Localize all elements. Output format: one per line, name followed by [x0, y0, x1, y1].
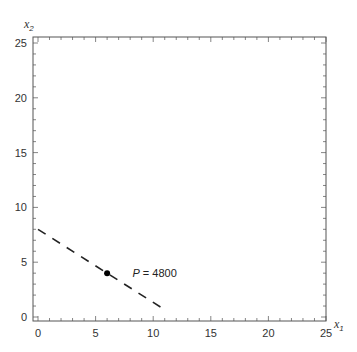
y-axis-label: x2 [23, 17, 34, 33]
x-axis-label-sub: 1 [339, 324, 343, 333]
y-axis-label-sub: 2 [28, 24, 34, 33]
y-tick-label: 25 [15, 37, 27, 49]
plot-frame [33, 37, 326, 321]
y-tick-label: 10 [15, 201, 27, 213]
annotation-value: = 4800 [140, 267, 177, 279]
tick-labels: 05101520250510152025 [15, 37, 332, 339]
y-tick-label: 20 [15, 92, 27, 104]
x-tick-label: 15 [205, 327, 217, 339]
chart: 05101520250510152025 P = 4800 x2 x1 [0, 0, 357, 352]
x-tick-label: 20 [262, 327, 274, 339]
x-tick-label: 25 [320, 327, 332, 339]
y-tick-label: 0 [21, 311, 27, 323]
x-tick-label: 5 [93, 327, 99, 339]
x-tick-label: 10 [147, 327, 159, 339]
optimal-point-marker [104, 270, 110, 276]
axis-ticks [33, 37, 326, 321]
x-tick-label: 0 [35, 327, 41, 339]
y-tick-label: 15 [15, 147, 27, 159]
y-tick-label: 5 [21, 256, 27, 268]
x-axis-label: x1 [333, 317, 344, 333]
profit-annotation: P = 4800 [132, 267, 176, 279]
